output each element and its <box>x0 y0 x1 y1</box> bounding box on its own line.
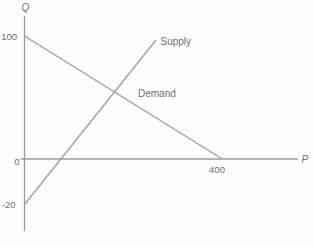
x-axis-title: P <box>302 154 309 165</box>
y-tick-100: 100 <box>1 31 17 42</box>
y-tick-neg20: -20 <box>2 199 16 210</box>
supply-demand-chart: Q P 100 0 -20 400 Supply Demand <box>0 0 313 247</box>
y-tick-0: 0 <box>14 156 19 167</box>
supply-line <box>25 40 157 205</box>
y-axis-title: Q <box>22 2 30 13</box>
x-tick-400: 400 <box>209 164 225 175</box>
demand-line-label: Demand <box>138 88 176 99</box>
demand-line <box>25 36 222 159</box>
supply-demand-figure: Q P 100 0 -20 400 Supply Demand <box>0 0 313 247</box>
supply-line-label: Supply <box>161 36 192 47</box>
